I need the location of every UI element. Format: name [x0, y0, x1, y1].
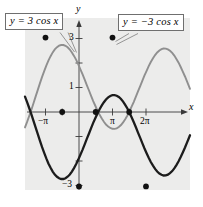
- curve-black-neg3cosx: [25, 95, 190, 179]
- y-axis-arrow: [76, 20, 81, 27]
- point-three-half-pi-0: [126, 109, 132, 115]
- x-tick-label-two-pi: 2π: [140, 116, 150, 126]
- point-neg-pi-3: [43, 35, 49, 41]
- point-two-pi-neg3: [143, 184, 149, 190]
- callout-black-equation[interactable]: y = −3 cos x: [118, 14, 184, 31]
- x-tick-label-pi: π: [110, 116, 115, 126]
- callout-left-text: y = 3 cos x: [10, 15, 58, 26]
- y-tick-label-3: 3: [69, 32, 74, 42]
- x-tick-label-neg-pi: −π: [38, 116, 48, 126]
- point-neg-half-pi-0: [59, 109, 65, 115]
- leader-line-right-a: [116, 34, 130, 42]
- figure-container: y = 3 cos x y = −3 cos x −π π 2π 3 1 −3 …: [0, 0, 203, 207]
- x-axis-label: x: [189, 101, 193, 112]
- curve-gray-3cosx: [25, 45, 190, 129]
- point-half-pi-0: [93, 109, 99, 115]
- callout-right-text: y = −3 cos x: [123, 16, 179, 27]
- y-axis-label: y: [76, 3, 80, 14]
- callout-gray-equation[interactable]: y = 3 cos x: [5, 13, 63, 30]
- y-tick-label-1: 1: [69, 81, 74, 91]
- point-pi-3: [110, 35, 116, 41]
- axes-group: [27, 20, 188, 190]
- x-axis-arrow: [181, 109, 188, 114]
- point-0-neg3: [76, 184, 82, 190]
- y-tick-label-neg-3: −3: [62, 179, 72, 189]
